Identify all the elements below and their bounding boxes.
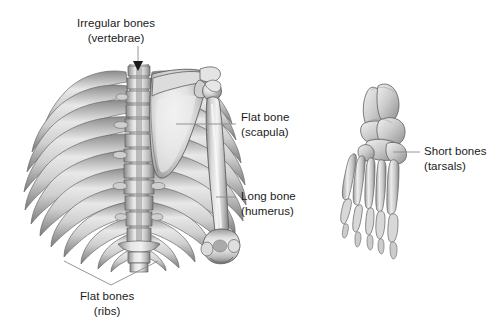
label-irregular-bones: Irregular bones (vertebrae) (77, 16, 155, 45)
label-short-bones-tarsals-line1: Short bones (424, 145, 487, 157)
label-flat-bones-ribs-line2: (ribs) (80, 304, 134, 319)
label-long-bone-humerus: Long bone (humerus) (241, 189, 296, 218)
label-short-bones-tarsals: Short bones (tarsals) (424, 144, 487, 173)
label-flat-bones-ribs-line1: Flat bones (80, 290, 134, 302)
label-long-bone-humerus-line1: Long bone (241, 190, 296, 202)
label-flat-bone-scapula: Flat bone (scapula) (241, 110, 289, 139)
label-flat-bone-scapula-line1: Flat bone (241, 111, 289, 123)
label-short-bones-tarsals-line2: (tarsals) (424, 159, 487, 174)
label-irregular-bones-line1: Irregular bones (77, 17, 155, 29)
label-irregular-bones-line2: (vertebrae) (77, 31, 155, 46)
label-long-bone-humerus-line2: (humerus) (241, 204, 296, 219)
bone-types-figure: Irregular bones (vertebrae) Flat bone (s… (0, 0, 499, 334)
label-flat-bones-ribs: Flat bones (ribs) (80, 289, 134, 318)
label-flat-bone-scapula-line2: (scapula) (241, 125, 289, 140)
